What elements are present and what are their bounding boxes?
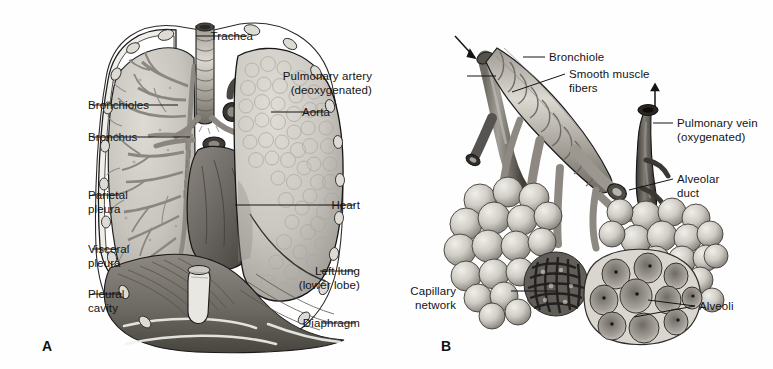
label-visceral-pleura: Visceralpleura [88,243,130,270]
label-line-1: Alveolar [677,173,719,187]
label-line-1: Parietal [88,189,128,203]
label-line-1: Alveoli [699,300,734,314]
label-line-1: Aorta [302,106,330,120]
label-bronchioles: Bronchioles [88,99,149,113]
label-left-lung: Left lung(lower lobe) [299,265,360,292]
label-bronchus: Bronchus [88,131,137,145]
label-line-1: Visceral [88,243,130,257]
label-parietal-pleura: Parietalpleura [88,189,128,216]
label-line-1: Pulmonary vein [677,117,758,131]
label-line-2: cavity [88,302,125,316]
label-bronchiole: Bronchiole [549,51,604,65]
label-line-2: fibers [569,82,650,96]
label-line-1: Pleural [88,288,125,302]
label-line-2: (lower lobe) [299,279,360,293]
vein-flow-arrow [651,84,658,108]
label-trachea: Trachea [211,30,253,44]
panel-letter-b: B [441,338,451,354]
alveoli-cutaway [584,249,702,344]
label-heart: Heart [331,199,360,213]
label-pulmonary-vein: Pulmonary vein(oxygenated) [677,117,758,144]
panel-letter-a: A [42,338,52,354]
label-alveolar-duct: Alveolarduct [677,173,719,200]
artery-flow-arrow [455,36,475,58]
label-line-2: duct [677,187,719,201]
label-line-1: Bronchioles [88,99,149,113]
label-line-1: Diaphragm [303,317,360,331]
central-column [188,266,210,324]
label-line-2: pleura [88,257,130,271]
label-line-2: pleura [88,203,128,217]
label-line-1: Capillary [410,285,456,299]
label-pulmonary-artery: Pulmonary artery(deoxygenated) [283,70,372,97]
anatomy-figure: TracheaAortaHeartLeft lung(lower lobe)Di… [0,0,773,369]
label-line-1: Smooth muscle [569,68,650,82]
label-line-1: Left lung [299,265,360,279]
label-line-1: Heart [331,199,360,213]
label-line-2: network [410,299,456,313]
label-line-1: Pulmonary artery [283,70,372,84]
label-aorta: Aorta [302,106,330,120]
label-pleural-cavity: Pleuralcavity [88,288,125,315]
label-alveoli: Alveoli [699,300,734,314]
label-capillary-network: Capillarynetwork [410,285,456,312]
label-smooth-muscle-fibers: Smooth musclefibers [569,68,650,95]
label-line-2: (deoxygenated) [283,84,372,98]
label-diaphragm: Diaphragm [303,317,360,331]
label-line-2: (oxygenated) [677,131,758,145]
label-line-1: Bronchus [88,131,137,145]
label-line-1: Bronchiole [549,51,604,65]
label-line-1: Trachea [211,30,253,44]
capillary-network-mesh [524,252,588,316]
